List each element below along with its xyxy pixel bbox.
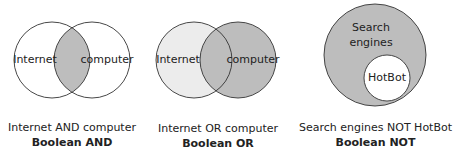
or-title: Boolean OR	[148, 136, 288, 151]
not-label-hotbot: HotBot	[368, 71, 407, 84]
and-caption-block: Internet AND computer Boolean AND	[0, 120, 144, 150]
and-caption: Internet AND computer	[8, 121, 136, 134]
or-venn: Internet computer	[156, 22, 280, 98]
not-caption-block: Search engines NOT HotBot Boolean NOT	[298, 120, 453, 150]
not-label-search: Search	[352, 21, 390, 34]
or-caption: Internet OR computer	[158, 122, 278, 135]
and-label-computer: computer	[80, 53, 134, 66]
not-title: Boolean NOT	[298, 135, 453, 150]
or-label-internet: Internet	[156, 53, 200, 66]
not-caption: Search engines NOT HotBot	[299, 121, 452, 134]
and-label-internet: Internet	[13, 53, 57, 66]
not-venn: Search engines HotBot	[324, 4, 426, 106]
or-caption-block: Internet OR computer Boolean OR	[148, 121, 288, 151]
or-label-computer: computer	[226, 53, 280, 66]
not-label-engines: engines	[349, 36, 393, 49]
and-title: Boolean AND	[0, 135, 144, 150]
and-venn: Internet computer	[13, 22, 134, 98]
